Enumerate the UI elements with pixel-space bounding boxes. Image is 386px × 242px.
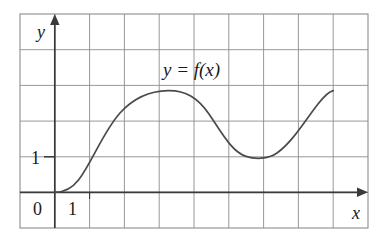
- function-graph-figure: y x y = f(x) 1 0 1: [0, 0, 386, 242]
- x-tick-label-1: 1: [68, 199, 77, 219]
- origin-label: 0: [33, 199, 42, 219]
- curve-equation-label: y = f(x): [161, 59, 220, 81]
- y-tick-label-1: 1: [31, 148, 40, 168]
- figure-container: y x y = f(x) 1 0 1: [0, 0, 386, 242]
- y-axis-label: y: [35, 22, 45, 42]
- x-axis-label: x: [351, 203, 360, 223]
